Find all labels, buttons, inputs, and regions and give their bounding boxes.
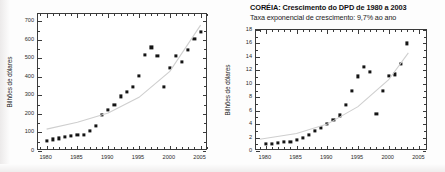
right-chart-panel: CORÉIA: Crescimento do DPD de 1980 a 200… (222, 0, 445, 172)
x-tick-label: 1980 (39, 154, 51, 160)
x-tick-label: 1990 (320, 154, 332, 160)
y-tick-label: 500 (16, 54, 34, 60)
y-tick-label: 14 (234, 53, 252, 59)
right-chart-y-axis-title: Bilhões de dólares (224, 64, 231, 115)
left-chart-panel: Bilhões de dólares 010020030040050060070… (0, 0, 222, 172)
x-tick-label: 2005 (193, 154, 205, 160)
y-tick-label: 700 (16, 17, 34, 23)
y-tick-label: 0 (16, 147, 34, 153)
left-chart-fit-curve (38, 14, 208, 151)
y-tick-mark (423, 151, 427, 152)
x-tick-label: 1985 (289, 154, 301, 160)
y-tick-label: 6 (234, 107, 252, 113)
x-tick-label: 1995 (351, 154, 363, 160)
y-tick-label: 0 (234, 147, 252, 153)
right-chart-plot-area (255, 29, 427, 150)
y-tick-label: 10 (234, 80, 252, 86)
y-tick-label: 300 (16, 91, 34, 97)
right-chart-title: CORÉIA: Crescimento do DPD de 1980 a 200… (250, 4, 440, 13)
y-tick-label: 200 (16, 110, 34, 116)
y-tick-label: 400 (16, 73, 34, 79)
x-tick-label: 1985 (70, 154, 82, 160)
y-tick-label: 2 (234, 134, 252, 140)
y-tick-label: 12 (234, 66, 252, 72)
x-tick-label: 1995 (132, 154, 144, 160)
x-tick-label: 2005 (412, 154, 424, 160)
x-tick-label: 2000 (163, 154, 175, 160)
y-tick-label: 4 (234, 120, 252, 126)
left-chart-y-axis-title: Bilhões de dólares (6, 56, 13, 107)
x-tick-label: 2000 (381, 154, 393, 160)
y-tick-mark (256, 151, 260, 152)
x-tick-label: 1990 (101, 154, 113, 160)
y-tick-label: 600 (16, 36, 34, 42)
y-tick-label: 16 (234, 39, 252, 45)
right-chart-title-block: CORÉIA: Crescimento do DPD de 1980 a 200… (250, 4, 440, 22)
right-chart-subtitle: Taxa exponencial de crescimento: 9,7% ao… (250, 14, 440, 22)
left-chart-plot-area (37, 13, 207, 150)
x-tick-label: 1980 (259, 154, 271, 160)
y-tick-mark (38, 151, 42, 152)
y-tick-mark (203, 151, 207, 152)
right-chart-fit-curve (256, 30, 428, 151)
y-tick-label: 18 (234, 26, 252, 32)
y-tick-label: 100 (16, 128, 34, 134)
figure-page: Bilhões de dólares 010020030040050060070… (0, 0, 445, 172)
y-tick-label: 8 (234, 93, 252, 99)
